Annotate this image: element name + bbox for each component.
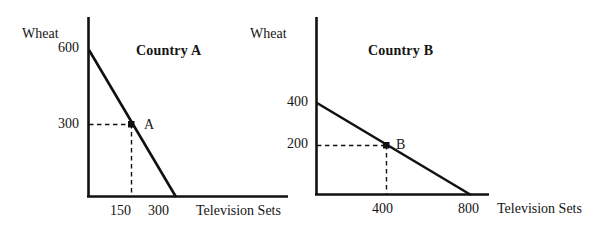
country-a-point-marker [128, 121, 135, 128]
country-a-point-label: A [144, 118, 154, 132]
country-a-title: Country A [136, 44, 201, 58]
country-b-point-marker [383, 142, 390, 149]
country-b-y-axis-label: Wheat [250, 27, 287, 41]
country-b-x-tick-400: 400 [372, 202, 393, 216]
country-b-title: Country B [368, 44, 433, 58]
country-a-y-axis-label: Wheat [22, 27, 59, 41]
country-a-x-tick-300: 300 [148, 204, 169, 218]
country-a-x-axis-label: Television Sets [196, 204, 281, 218]
country-b-x-axis-label: Television Sets [497, 202, 582, 216]
country-b-x-tick-800: 800 [458, 202, 479, 216]
country-a-guides [89, 124, 132, 196]
country-a-y-tick-300: 300 [58, 117, 79, 131]
ppf-diagram-svg [0, 0, 596, 232]
country-b-point-label: B [396, 138, 405, 152]
country-b-guides [317, 145, 387, 194]
country-b-ppf-line [317, 103, 471, 195]
country-b-y-tick-400: 400 [287, 95, 308, 109]
figure-canvas: Wheat 600 300 Country A A 150 300 Televi… [0, 0, 596, 232]
country-a-y-tick-600: 600 [58, 41, 79, 55]
country-b-y-tick-200: 200 [287, 137, 308, 151]
country-a-x-tick-150: 150 [110, 204, 131, 218]
